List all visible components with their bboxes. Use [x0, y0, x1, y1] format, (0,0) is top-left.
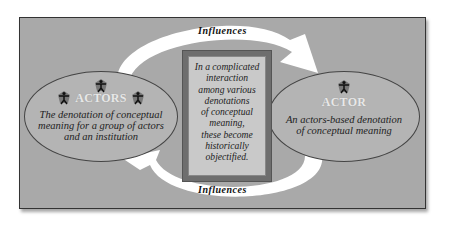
bottom-influences-label: Influences [198, 184, 247, 195]
actors-node: ACTORS The denotation of conceptual mean… [24, 71, 178, 162]
actor-node: ACTOR An actors-based denotation of conc… [268, 71, 420, 162]
objectification-text: In a complicated interaction among vario… [188, 56, 266, 176]
actor-description: An actors-based denotation of conceptual… [269, 114, 419, 136]
actor-heading: ACTOR [269, 95, 419, 110]
objectification-box: In a complicated interaction among vario… [182, 50, 272, 182]
actors-heading: ACTORS [75, 91, 127, 105]
top-influences-label: Influences [198, 25, 247, 36]
person-icon [131, 91, 145, 105]
person-icon [337, 80, 351, 94]
actors-description: The denotation of conceptual meaning for… [25, 109, 177, 142]
person-icon [57, 91, 71, 105]
